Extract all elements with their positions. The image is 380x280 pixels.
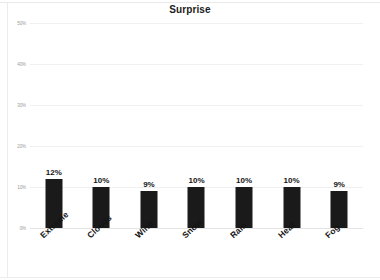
- x-axis-label-slot: Heat: [268, 231, 316, 279]
- y-axis-tick-label: 50%: [0, 21, 26, 26]
- bar-value-label: 10%: [284, 176, 300, 185]
- bar-group: 12%: [30, 23, 78, 228]
- y-axis-tick-label: 40%: [0, 62, 26, 67]
- bar-group: 10%: [268, 23, 316, 228]
- chart-title: Surprise: [0, 4, 380, 15]
- bar-value-label: 10%: [93, 176, 109, 185]
- x-axis-label-slot: Fog: [315, 231, 363, 279]
- bar-group: 10%: [78, 23, 126, 228]
- bar-value-label: 10%: [236, 176, 252, 185]
- bar-group: 10%: [173, 23, 221, 228]
- x-axis-label-slot: Extreme: [30, 231, 78, 279]
- y-axis-tick-label: 0%: [0, 226, 26, 231]
- x-axis-label-slot: Clouds: [78, 231, 126, 279]
- x-axis-category-labels: ExtremeCloudsWindSnowRainHeatFog: [30, 231, 363, 279]
- bar-value-label: 12%: [46, 168, 62, 177]
- y-axis-tick-label: 20%: [0, 144, 26, 149]
- frame-top-border: [0, 2, 380, 3]
- x-axis-label-slot: Wind: [125, 231, 173, 279]
- y-axis-tick-label: 30%: [0, 103, 26, 108]
- plot-area: 0%10%20%30%40%50% 12%10%9%10%10%10%9%: [30, 23, 363, 228]
- bar-value-label: 9%: [143, 180, 155, 189]
- y-axis-tick-label: 10%: [0, 185, 26, 190]
- x-axis-label-slot: Snow: [173, 231, 221, 279]
- bar-value-label: 10%: [188, 176, 204, 185]
- bar-chart: Surprise 0%10%20%30%40%50% 12%10%9%10%10…: [0, 0, 380, 280]
- x-axis-label-slot: Rain: [220, 231, 268, 279]
- bar-value-label: 9%: [333, 180, 345, 189]
- bar-group: 9%: [315, 23, 363, 228]
- bar-group: 9%: [125, 23, 173, 228]
- bar-group: 10%: [220, 23, 268, 228]
- frame-left-border: [7, 2, 8, 278]
